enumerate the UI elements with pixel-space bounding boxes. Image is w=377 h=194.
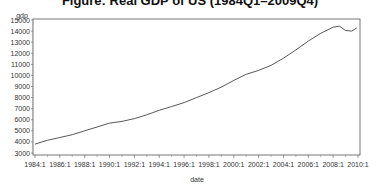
y-tick-label: 7000 [14,105,30,112]
x-tick-label: 1994:1 [149,161,171,168]
x-tick-label: 1998:1 [198,161,220,168]
x-tick-label: 2004:1 [273,161,295,168]
x-tick-label: 2010:1 [347,161,369,168]
x-tick-label: 2006:1 [298,161,320,168]
y-tick-label: 3000 [14,150,30,157]
x-axis: 1984:11986:11988:11990:11992:11994:11996… [24,155,369,168]
line-chart: Figure: Real GDP of US (1984Q1–2009Q4) g… [0,0,377,194]
y-tick-label: 11000 [11,61,30,68]
x-tick-label: 1988:1 [74,161,96,168]
y-axis: 3000400050006000700080009000100001100012… [11,17,33,157]
y-tick-label: 13000 [11,39,31,46]
y-tick-label: 6000 [14,116,30,123]
y-tick-label: 14000 [11,28,31,35]
x-axis-title: date [190,176,204,183]
x-tick-label: 2008:1 [322,161,344,168]
gdp-series-line [35,26,357,144]
x-tick-label: 1990:1 [99,161,121,168]
y-tick-label: 9000 [14,83,30,90]
x-tick-label: 1986:1 [49,161,71,168]
chart-title: Figure: Real GDP of US (1984Q1–2009Q4) [62,0,318,8]
y-tick-label: 12000 [11,50,31,57]
y-tick-label: 15000 [11,17,31,24]
x-tick-label: 1992:1 [124,161,146,168]
x-tick-label: 1984:1 [24,161,46,168]
y-tick-label: 8000 [14,94,30,101]
y-tick-label: 4000 [14,138,30,145]
x-tick-label: 2000:1 [223,161,245,168]
x-tick-label: 2002:1 [248,161,270,168]
x-tick-label: 1996:1 [173,161,195,168]
y-tick-label: 5000 [14,127,30,134]
y-tick-label: 10000 [11,72,31,79]
